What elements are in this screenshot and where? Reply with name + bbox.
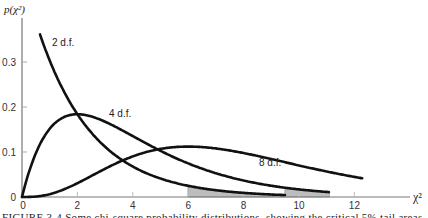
x-tick-label: 0: [20, 200, 26, 211]
x-tick-label: 4: [130, 200, 136, 211]
x-tick-label: 6: [185, 200, 191, 211]
y-tick-label: 0.1: [2, 147, 16, 158]
label-2df: 2 d.f.: [52, 37, 74, 48]
x-axis-label: χ²: [412, 190, 422, 204]
chi-square-chart: 00.10.20.3 024681012 p(χ²) χ² 2 d.f. 4 d…: [0, 0, 428, 218]
y-axis-label: p(χ²): [3, 3, 25, 16]
figure-caption: FIGURE 3-4 Some chi-square probability d…: [2, 211, 428, 218]
x-tick-label: 10: [293, 200, 305, 211]
distribution-curves: [22, 34, 362, 197]
x-tick-label: 2: [75, 200, 81, 211]
y-ticks: 00.10.20.3: [2, 57, 27, 203]
x-tick-label: 8: [241, 200, 247, 211]
y-tick-label: 0.3: [2, 57, 16, 68]
y-tick-label: 0.2: [2, 102, 16, 113]
y-tick-label: 0: [10, 192, 16, 203]
label-4df: 4 d.f.: [109, 108, 131, 119]
x-tick-label: 12: [349, 200, 361, 211]
curve-4df: [22, 114, 329, 197]
label-8df: 8 d.f.: [259, 157, 281, 168]
